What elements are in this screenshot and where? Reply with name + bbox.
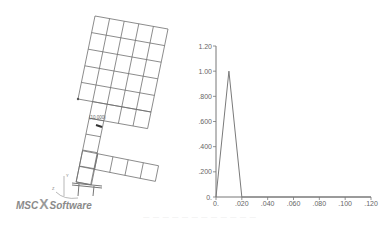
svg-text:.100: .100 — [338, 200, 352, 207]
axis-label-z: Z — [52, 186, 55, 191]
load-history-chart: 0..200.400.600.8001.001.20 0..020.040.06… — [190, 30, 391, 220]
svg-text:0.: 0. — [213, 200, 219, 207]
svg-text:1.20: 1.20 — [198, 43, 212, 50]
msc-software-logo: MSCXSoftware — [16, 196, 92, 212]
load-arrow-icon — [96, 125, 102, 127]
mesh-drawing: (10,000) Y Z — [0, 0, 200, 226]
data-series-line — [216, 71, 371, 197]
mesh-grid — [76, 16, 168, 185]
svg-text:.400: .400 — [198, 143, 212, 150]
svg-text:.060: .060 — [287, 200, 301, 207]
svg-text:1.00: 1.00 — [198, 68, 212, 75]
logo-x-icon: X — [39, 196, 48, 212]
svg-text:.120: .120 — [364, 200, 378, 207]
figure-caption: — — — — — — — — — — — — — [130, 214, 270, 222]
svg-text:0.: 0. — [206, 194, 212, 201]
svg-text:.800: .800 — [198, 93, 212, 100]
x-axis-ticks: 0..020.040.060.080.100.120 — [213, 197, 378, 207]
logo-prefix: MSC — [16, 200, 38, 211]
svg-text:.200: .200 — [198, 168, 212, 175]
support-base — [72, 183, 102, 196]
mesh-corner-node — [77, 98, 79, 100]
chart-canvas: 0..200.400.600.8001.001.20 0..020.040.06… — [190, 30, 391, 220]
svg-text:.040: .040 — [261, 200, 275, 207]
svg-text:.080: .080 — [313, 200, 327, 207]
y-axis-ticks: 0..200.400.600.8001.001.20 — [198, 43, 216, 201]
node-label: (10,000) — [89, 115, 106, 120]
axis-label-y: Y — [66, 173, 69, 178]
svg-text:.020: .020 — [235, 200, 249, 207]
fe-mesh-view: (10,000) Y Z MSCXSoftware — [0, 0, 200, 226]
svg-text:.600: .600 — [198, 118, 212, 125]
logo-suffix: Software — [50, 200, 92, 211]
